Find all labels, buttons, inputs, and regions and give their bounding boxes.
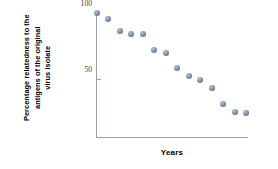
y-axis-tick-label-100: 100: [60, 0, 92, 8]
y-axis-title-line-3: virus isolate: [43, 2, 54, 134]
data-point: [94, 10, 100, 16]
scatter-chart-figure: Percentage relatedness to the antigens o…: [0, 0, 278, 169]
data-point: [174, 65, 180, 71]
data-point: [186, 73, 192, 79]
data-point: [163, 50, 169, 56]
data-point: [243, 110, 249, 116]
y-axis-tick-mark-50: [96, 79, 101, 80]
y-axis-title-container: Percentage relatedness to the antigens o…: [0, 0, 76, 160]
data-point: [209, 85, 215, 91]
data-point: [105, 16, 111, 22]
y-axis-title: Percentage relatedness to the antigens o…: [22, 2, 54, 134]
data-point: [232, 109, 238, 115]
data-point: [151, 47, 157, 53]
y-axis-tick-label-50: 50: [60, 65, 92, 74]
data-point: [220, 101, 226, 107]
plot-area: [96, 11, 248, 138]
data-point: [197, 77, 203, 83]
y-axis-title-line-2: antigens of the original: [33, 2, 44, 134]
x-axis-title: Years: [96, 148, 248, 157]
y-axis-line: [96, 11, 97, 138]
x-axis-line: [96, 137, 248, 138]
data-point: [140, 31, 146, 37]
y-axis-title-line-1: Percentage relatedness to the: [22, 2, 33, 134]
data-point: [128, 31, 134, 37]
data-point: [117, 28, 123, 34]
